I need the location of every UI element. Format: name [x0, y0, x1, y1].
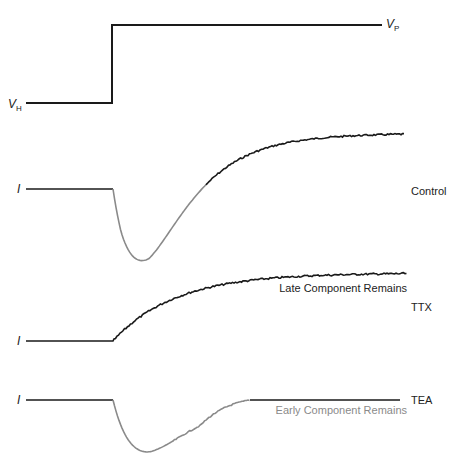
ttx-annotation: Late Component Remains [279, 282, 407, 294]
tea-annotation: Early Component Remains [276, 404, 408, 416]
holding-potential-label: VH [8, 97, 22, 113]
ttx-trace: I Late Component Remains TTX [17, 273, 432, 348]
tea-condition-label: TEA [411, 394, 433, 406]
voltage-step-line [26, 25, 382, 103]
voltage-step-trace: VH VP [8, 17, 399, 113]
control-current-axis-label: I [17, 182, 21, 196]
tea-early-component [113, 400, 250, 452]
step-potential-label: VP [386, 17, 399, 33]
ttx-current-axis-label: I [17, 334, 21, 348]
control-late-component [206, 134, 404, 185]
tea-current-axis-label: I [17, 393, 21, 407]
control-condition-label: Control [411, 185, 446, 197]
tea-trace: I TEA Early Component Remains [17, 393, 433, 452]
control-early-component [113, 183, 208, 260]
control-trace: I Control [17, 134, 446, 261]
ttx-condition-label: TTX [411, 301, 432, 313]
figure-canvas: VH VP I Control I Late Component Remains… [0, 0, 458, 467]
